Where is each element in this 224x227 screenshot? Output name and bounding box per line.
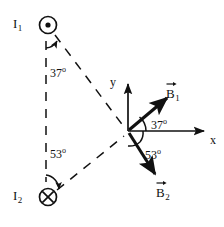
angle-label-bottom: 53o — [50, 147, 66, 160]
vector-overbar-icon — [156, 180, 167, 186]
b1-label: B1 — [166, 87, 180, 103]
b2-vector-notation: B — [156, 186, 165, 199]
angle-label-bottom-degree: o — [62, 146, 66, 155]
angle-label-b2-value: 53 — [145, 148, 157, 162]
b2-label: B2 — [156, 186, 170, 202]
current-i1-subscript: 1 — [17, 23, 22, 33]
angle-label-bottom-value: 53 — [50, 147, 62, 161]
b1-subscript: 1 — [175, 93, 180, 103]
angle-label-top-degree: o — [62, 65, 66, 74]
angle-label-b2-degree: o — [157, 147, 161, 156]
b2-subscript: 2 — [165, 192, 170, 202]
dashed-line-i2-to-origin — [57, 136, 124, 190]
b1-symbol: B — [166, 86, 175, 101]
angle-label-b1-value: 37 — [151, 118, 163, 132]
angle-label-b1-degree: o — [163, 117, 167, 126]
angle-label-b2: 53o — [145, 148, 161, 161]
angle-arc-b2 — [140, 131, 143, 142]
current-i2-subscript: 2 — [17, 195, 22, 205]
angle-arc-top — [46, 41, 57, 48]
current-out-of-page-icon — [40, 17, 57, 34]
diagram-canvas — [0, 0, 224, 227]
angle-label-b1: 37o — [151, 118, 167, 131]
angle-label-top-value: 37 — [50, 66, 62, 80]
angle-arc-bottom — [46, 175, 59, 189]
b2-symbol: B — [156, 185, 165, 200]
angle-label-top: 37o — [50, 66, 66, 79]
current-i2-label: I2 — [13, 189, 22, 205]
current-i1-label: I1 — [13, 17, 22, 33]
vector-overbar-icon — [166, 81, 177, 87]
y-axis-label: y — [110, 76, 116, 88]
x-axis-label: x — [210, 134, 216, 146]
physics-vector-diagram: I1 I2 37o 53o 37o 53o y x B1 — [0, 0, 224, 227]
b1-vector-notation: B — [166, 87, 175, 100]
current-into-page-icon — [40, 189, 57, 206]
